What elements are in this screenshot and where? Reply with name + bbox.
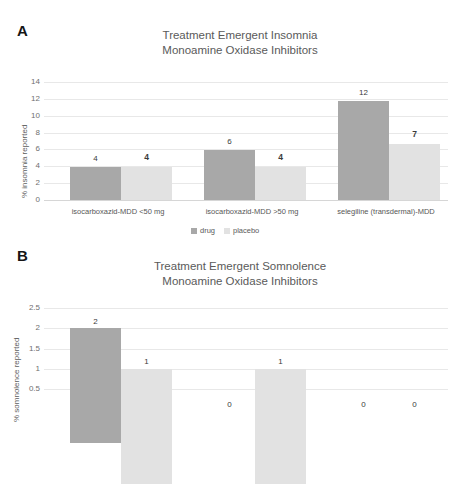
- chart-a-gridline-14: 14: [44, 82, 448, 83]
- legend-swatch-drug-icon: [191, 228, 197, 234]
- chart-b-bar-placebo-isocarboxazid-lt50: [121, 369, 172, 484]
- chart-a-legend-label-drug: drug: [200, 226, 215, 235]
- chart-a-bar-drug-isocarboxazid-lt50: [70, 167, 121, 200]
- chart-a-ytick-2: 2: [36, 179, 40, 187]
- chart-a-value-drug-isocarboxazid-lt50: 4: [70, 154, 121, 163]
- chart-a-ytick-14: 14: [31, 78, 40, 86]
- chart-a-legend-label-placebo: placebo: [233, 226, 259, 235]
- chart-a-bar-placebo-isocarboxazid-lt50: [121, 167, 172, 200]
- chart-a-legend-item-drug: drug: [191, 226, 215, 235]
- chart-a-ytick-4: 4: [36, 162, 40, 170]
- chart-a-title: Treatment Emergent Insomnia Monoamine Ox…: [40, 28, 440, 58]
- chart-a-title-line1: Treatment Emergent Insomnia: [40, 28, 440, 43]
- chart-b-ytick-2-5: 2.5: [29, 304, 40, 312]
- chart-b-bar-placebo-isocarboxazid-gt50: [255, 369, 306, 484]
- chart-a-legend-item-placebo: placebo: [224, 226, 259, 235]
- chart-b-ytick-2: 2: [36, 324, 40, 332]
- chart-a-value-placebo-isocarboxazid-lt50: 4: [121, 153, 172, 162]
- chart-a-ytick-6: 6: [36, 145, 40, 153]
- panel-a-letter: A: [17, 22, 28, 39]
- chart-a-category-label-2: isocarboxazid-MDD >50 mg: [178, 207, 326, 216]
- chart-a-plot-area: 14 12 10 8 6 4 2 0 4 4 6 4: [44, 82, 448, 200]
- chart-a-legend: drug placebo: [191, 226, 259, 235]
- chart-a-value-placebo-selegiline: 7: [389, 130, 440, 139]
- chart-b-ytick-0-5: 0.5: [29, 385, 40, 393]
- chart-b-ytick-1: 1: [36, 365, 40, 373]
- chart-a-bar-drug-isocarboxazid-gt50: [204, 150, 255, 200]
- chart-b-plot-area: 2.5 2 1.5 1 0.5 2 1 0 1 0 0: [44, 308, 448, 410]
- legend-swatch-placebo-icon: [224, 228, 230, 234]
- chart-b-ytick-1-5: 1.5: [29, 345, 40, 353]
- chart-a-ytick-8: 8: [36, 129, 40, 137]
- chart-b-title: Treatment Emergent Somnolence Monoamine …: [40, 259, 440, 289]
- chart-a-value-drug-selegiline: 12: [338, 88, 389, 97]
- chart-a-ytick-12: 12: [31, 95, 40, 103]
- chart-a-ytick-0: 0: [36, 196, 40, 204]
- chart-a-bar-placebo-selegiline: [389, 144, 440, 201]
- chart-b-value-placebo-selegiline: 0: [389, 400, 440, 409]
- chart-a-ytick-10: 10: [31, 112, 40, 120]
- chart-b-gridline-2-5: 2.5: [44, 308, 448, 309]
- chart-b-value-drug-isocarboxazid-gt50: 0: [204, 400, 255, 409]
- chart-a-y-axis-label: % insomnia reported: [20, 125, 29, 198]
- panel-a-insomnia-chart: A Treatment Emergent Insomnia Monoamine …: [0, 0, 465, 240]
- chart-a-value-placebo-isocarboxazid-gt50: 4: [255, 153, 306, 162]
- chart-b-title-line1: Treatment Emergent Somnolence: [40, 259, 440, 274]
- chart-b-bar-drug-isocarboxazid-lt50: [70, 328, 121, 443]
- panel-b-letter: B: [17, 247, 28, 264]
- panel-b-somnolence-chart: B Treatment Emergent Somnolence Monoamin…: [0, 238, 465, 421]
- chart-b-title-line2: Monoamine Oxidase Inhibitors: [40, 274, 440, 289]
- chart-b-value-drug-isocarboxazid-lt50: 2: [70, 317, 121, 326]
- chart-a-category-label-1: isocarboxazid-MDD <50 mg: [44, 207, 192, 216]
- chart-a-category-label-3: selegiline (transdermal)-MDD: [312, 207, 460, 216]
- chart-b-value-placebo-isocarboxazid-gt50: 1: [255, 357, 306, 366]
- chart-a-axis-baseline: 0: [44, 200, 448, 201]
- chart-b-value-placebo-isocarboxazid-lt50: 1: [121, 357, 172, 366]
- chart-a-bar-placebo-isocarboxazid-gt50: [255, 167, 306, 200]
- chart-a-title-line2: Monoamine Oxidase Inhibitors: [40, 43, 440, 58]
- chart-b-y-axis-label: % somnolence reported: [12, 338, 21, 423]
- chart-a-bar-drug-selegiline: [338, 101, 389, 200]
- chart-b-value-drug-selegiline: 0: [338, 400, 389, 409]
- chart-a-value-drug-isocarboxazid-gt50: 6: [204, 137, 255, 146]
